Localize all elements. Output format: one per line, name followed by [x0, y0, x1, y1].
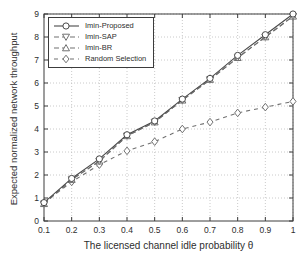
legend-swatch-triangle-down-dashed-icon	[53, 32, 80, 42]
svg-text:1: 1	[291, 225, 296, 235]
legend-swatch-diamond-dashed-icon	[53, 54, 80, 64]
x-axis-label: The licensed channel idle probability θ	[44, 240, 293, 251]
y-axis-label: Expected normalized network throughput	[8, 16, 22, 222]
legend-swatch-circle-solid-icon	[53, 21, 80, 31]
svg-text:0.8: 0.8	[232, 225, 244, 235]
svg-text:3: 3	[34, 147, 39, 157]
svg-text:0.1: 0.1	[38, 225, 50, 235]
svg-text:0.7: 0.7	[204, 225, 216, 235]
svg-text:4: 4	[34, 124, 39, 134]
svg-text:0.3: 0.3	[93, 225, 105, 235]
svg-text:0.2: 0.2	[66, 225, 78, 235]
legend-label: Imin-BR	[85, 42, 112, 53]
svg-text:0.4: 0.4	[121, 225, 133, 235]
svg-text:6: 6	[34, 78, 39, 88]
chart-legend: Imin-Proposed Imin-SAP Imin-BR Random Se…	[48, 17, 154, 68]
legend-item-imin-br: Imin-BR	[53, 42, 146, 53]
svg-text:8: 8	[34, 32, 39, 42]
svg-text:2: 2	[34, 170, 39, 180]
legend-item-imin-sap: Imin-SAP	[53, 31, 146, 42]
legend-label: Imin-Proposed	[85, 20, 134, 31]
legend-item-random-selection: Random Selection	[53, 53, 146, 64]
svg-text:0.9: 0.9	[259, 225, 271, 235]
svg-text:0: 0	[34, 216, 39, 226]
legend-swatch-triangle-up-dashed-icon	[53, 43, 80, 53]
legend-item-imin-proposed: Imin-Proposed	[53, 20, 146, 31]
svg-text:7: 7	[34, 55, 39, 65]
legend-label: Imin-SAP	[85, 31, 117, 42]
svg-text:9: 9	[34, 9, 39, 19]
svg-text:1: 1	[34, 193, 39, 203]
line-chart-figure: 0.10.20.30.40.50.60.70.80.910123456789 E…	[0, 0, 308, 263]
svg-text:0.6: 0.6	[176, 225, 188, 235]
svg-text:5: 5	[34, 101, 39, 111]
svg-text:0.5: 0.5	[149, 225, 161, 235]
legend-label: Random Selection	[85, 53, 146, 64]
